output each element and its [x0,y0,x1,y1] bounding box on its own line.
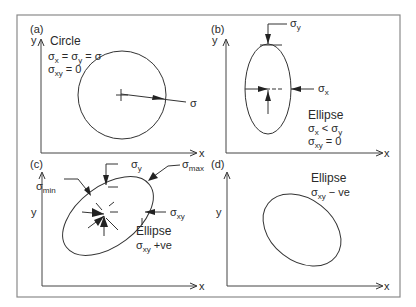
panel-c-y-label: y [31,206,37,218]
figure-canvas: (a) y x Circle σx = σy = σ σxy = 0 σ (b)… [0,0,416,307]
panel-b-x-label: x [384,147,390,159]
panel-b-inner-x-arrowhead-icon [258,86,268,92]
panel-d-label: (d) [211,158,224,170]
panel-d-shape-label: Ellipse [311,171,347,185]
panel-b-sigma-x-label: σx [318,82,329,97]
panel-a-condition-2: σxy = 0 [48,63,81,78]
panel-b: (b) y x σy σx Ellipse σx < σy σxy = 0 [211,17,390,159]
panel-b-sigma-y-label: σy [290,17,301,32]
panel-b-y-label: y [212,34,218,46]
panel-d: (d) y x Ellipse σxy − ve [211,158,390,292]
panel-c-sigma-xy-label: σxy [170,206,185,221]
panel-b-inner-y-arrowhead-icon [265,91,271,101]
panel-c-label: (c) [30,158,43,170]
panel-a-y-label: y [31,34,37,46]
panel-c: (c) y x σy σmax σmin σxy [30,158,205,292]
panel-b-condition-2: σxy = 0 [308,135,341,150]
panel-c-sigma-max-arrowhead-icon [148,172,158,181]
panel-a: (a) y x Circle σx = σy = σ σxy = 0 σ [30,23,205,159]
panel-b-shape-label: Ellipse [308,108,344,122]
panel-d-condition-1: σxy − ve [311,186,350,201]
panel-a-sigma-label: σ [190,97,197,109]
panel-c-sigma-max-label: σmax [182,158,204,173]
panel-d-y-label: y [216,206,222,218]
panel-c-sigma-min-label: σmin [36,180,56,195]
panel-d-x-label: x [384,280,390,292]
panel-a-shape-label: Circle [50,34,81,48]
panel-c-sigma-y-label: σy [131,158,142,173]
panel-a-x-label: x [199,147,205,159]
panel-b-sigma-x-arrowhead-icon [291,86,301,92]
stress-ellipse-figure: (a) y x Circle σx = σy = σ σxy = 0 σ (b)… [0,0,416,307]
panel-c-x-label: x [199,280,205,292]
panel-c-center-arrows [82,202,118,236]
panel-b-sigma-y-arrowhead-icon [265,34,271,44]
panel-c-shape-label: Ellipse [136,224,172,238]
panel-c-condition-1: σxy +ve [136,239,172,254]
